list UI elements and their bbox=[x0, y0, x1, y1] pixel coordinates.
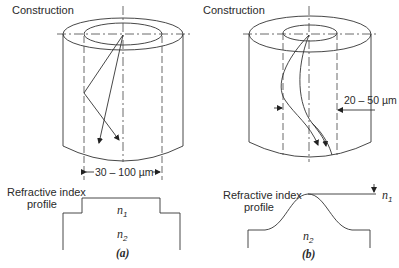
panel-b-n2-label: n2 bbox=[303, 229, 314, 245]
panel-b-profile-label-line1: Refractive index bbox=[223, 189, 302, 201]
panel-b-dimension-label: 20 – 50 µm bbox=[344, 94, 397, 106]
panel-a-dimension-label: 30 – 100 µm bbox=[95, 166, 154, 178]
panel-a-profile-label-line1: Refractive index bbox=[7, 186, 86, 198]
panel-b-n1-label: n1 bbox=[382, 188, 392, 204]
panel-b-profile-label-line2: profile bbox=[244, 201, 274, 213]
panel-b-cylinder bbox=[243, 6, 378, 162]
panel-a-n1-label: n1 bbox=[117, 203, 127, 219]
panel-a-profile: Refractive index profile n1 n2 (a) bbox=[7, 186, 180, 260]
panel-b-ray-paths bbox=[281, 35, 332, 155]
fiber-diagram: Construction 30 – 100 µm bbox=[0, 0, 399, 268]
panel-b-dimension: 20 – 50 µm bbox=[274, 94, 397, 110]
panel-a-n2-label: n2 bbox=[117, 227, 128, 243]
panel-a-ray-paths bbox=[84, 35, 123, 143]
panel-b-construction-label: Construction bbox=[203, 4, 265, 16]
panel-a-cylinder bbox=[57, 6, 190, 180]
panel-a-construction-label: Construction bbox=[12, 4, 74, 16]
panel-b-profile: Refractive index profile n1 n2 (b) bbox=[223, 184, 392, 261]
panel-a-profile-label-line2: profile bbox=[27, 198, 57, 210]
panel-a-dimension: 30 – 100 µm bbox=[86, 166, 160, 178]
panel-a-step-index: Construction 30 – 100 µm bbox=[7, 4, 190, 260]
panel-b-graded-index: Construction 20 – 50 µm Refractive index… bbox=[203, 4, 397, 261]
panel-b-caption: (b) bbox=[302, 248, 316, 261]
panel-a-caption: (a) bbox=[116, 247, 130, 260]
